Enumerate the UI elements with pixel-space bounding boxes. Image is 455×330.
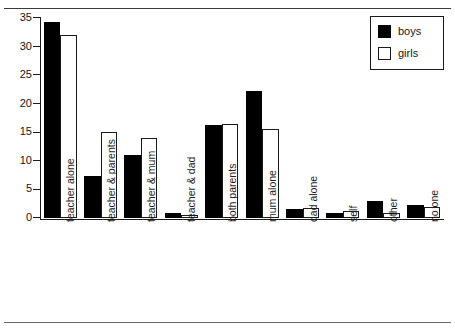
y-axis-tick-label: 0 (0, 212, 32, 223)
bar-boys-both-parents (205, 125, 222, 218)
bar-boys-dad-alone (286, 209, 303, 218)
y-axis-tick-label: 10 (0, 155, 32, 166)
top-divider (4, 8, 451, 9)
legend-label-boys: boys (398, 26, 421, 37)
x-axis-label-other: other (388, 198, 399, 222)
legend-item-girls: girls (378, 45, 436, 62)
y-axis-tick-label: 20 (0, 98, 32, 109)
bar-group (323, 18, 363, 218)
x-axis-label-both-parents: both parents (227, 164, 238, 222)
legend-swatch-girls-icon (378, 47, 391, 60)
bottom-divider (4, 322, 451, 323)
legend-swatch-boys-icon (378, 25, 391, 38)
y-axis-tick-label: 30 (0, 41, 32, 52)
x-axis-line (40, 219, 444, 220)
y-axis-tick-label: 35 (0, 12, 32, 23)
bar-boys-no-one (407, 205, 424, 218)
x-axis-label-no-one: no one (429, 190, 440, 222)
x-axis-label-mum-alone: mum alone (267, 170, 278, 222)
legend-item-boys: boys (378, 23, 436, 40)
x-axis-label-teacher-parents: teacher & parents (106, 139, 117, 222)
bar-boys-other (367, 201, 384, 218)
bar-boys-teacher-mum (124, 155, 141, 218)
legend-label-girls: girls (398, 48, 418, 59)
x-axis-label-teacher-alone: teacher alone (65, 158, 76, 222)
bar-boys-teacher-alone (44, 22, 61, 218)
chart-legend: boys girls (370, 16, 444, 70)
x-axis-label-self: self (348, 206, 359, 222)
bar-boys-mum-alone (246, 91, 263, 218)
bar-boys-teacher-parents (84, 176, 101, 218)
y-axis-tick-label: 5 (0, 183, 32, 194)
x-axis-label-teacher-mum: teacher & mum (146, 151, 157, 222)
x-axis-label-teacher-dad: teacher & dad (186, 157, 197, 222)
x-axis-label-dad-alone: dad alone (308, 176, 319, 222)
y-axis-tick-label: 15 (0, 126, 32, 137)
x-axis-category-labels: teacher aloneteacher & parentsteacher & … (40, 222, 444, 322)
bar-boys-self (326, 213, 343, 218)
y-axis-tick-label: 25 (0, 69, 32, 80)
bar-boys-teacher-dad (165, 213, 182, 218)
bar-chart-figure: 05101520253035 teacher aloneteacher & pa… (0, 0, 455, 330)
